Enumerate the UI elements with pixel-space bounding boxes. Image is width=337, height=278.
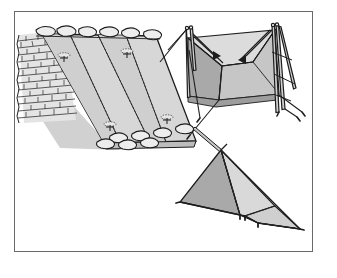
tent-peg [302,112,305,116]
weight-rock-bottom [97,139,115,149]
tent-peg [197,118,200,122]
figure-lean-to-wall-shelter [17,26,196,150]
tent-peg [176,202,180,203]
shelter-illustrations-artwork [0,0,337,278]
weight-rock-bottom [141,138,159,148]
tent-peg [297,117,300,121]
ridge-pole [193,127,222,152]
weight-rock-top [100,27,119,37]
guy-line [285,109,297,117]
weight-rock-bottom [176,124,194,134]
tent-peg [300,229,304,230]
illustration-page: Lean-to tarp shelter against stone wall … [0,0,337,278]
weight-rock-top [36,26,55,36]
weight-rock-top [79,27,97,37]
guy-line [160,30,186,62]
weight-rock-top [57,26,76,36]
weight-rock-top [122,28,140,38]
weight-rock-bottom [119,140,137,150]
weight-rock-bottom [154,128,172,138]
